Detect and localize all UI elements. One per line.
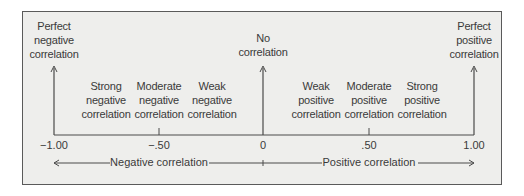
label-line: No (238, 31, 287, 45)
label-line: correlation (238, 45, 287, 59)
label-perfect-positive: Perfect positive correlation (449, 19, 498, 61)
label-line: correlation (81, 107, 130, 121)
label-no-correlation: No correlation (238, 31, 287, 59)
label-line: Perfect (449, 19, 498, 33)
label-line: correlation (397, 107, 446, 121)
label-line: negative (81, 93, 130, 107)
tick-label-neg-half: −.50 (148, 139, 170, 152)
label-line: Strong (397, 79, 446, 93)
label-line: Perfect (29, 19, 78, 33)
label-perfect-negative: Perfect negative correlation (29, 19, 78, 61)
label-line: correlation (291, 107, 340, 121)
label-line: Weak (291, 79, 340, 93)
label-moderate-negative: Moderate negative correlation (134, 79, 183, 121)
label-strong-positive: Strong positive correlation (397, 79, 446, 121)
label-line: negative (29, 33, 78, 47)
label-strong-negative: Strong negative correlation (81, 79, 130, 121)
label-line: negative (187, 93, 236, 107)
tick-label-pos-half: .50 (361, 139, 376, 152)
negative-correlation-label: Negative correlation (110, 156, 208, 169)
positive-correlation-label: Positive correlation (323, 156, 416, 169)
label-weak-negative: Weak negative correlation (187, 79, 236, 121)
label-line: correlation (187, 107, 236, 121)
label-line: positive (397, 93, 446, 107)
label-weak-positive: Weak positive correlation (291, 79, 340, 121)
label-line: correlation (134, 107, 183, 121)
label-line: positive (344, 93, 393, 107)
label-line: Strong (81, 79, 130, 93)
label-line: Moderate (344, 79, 393, 93)
label-line: Weak (187, 79, 236, 93)
tick-label-neg-1: −1.00 (40, 139, 68, 152)
label-line: correlation (344, 107, 393, 121)
label-line: correlation (29, 47, 78, 61)
label-line: correlation (449, 47, 498, 61)
label-moderate-positive: Moderate positive correlation (344, 79, 393, 121)
label-line: negative (134, 93, 183, 107)
label-line: positive (291, 93, 340, 107)
tick-label-zero: 0 (260, 139, 266, 152)
tick-label-pos-1: 1.00 (463, 139, 484, 152)
label-line: positive (449, 33, 498, 47)
label-line: Moderate (134, 79, 183, 93)
